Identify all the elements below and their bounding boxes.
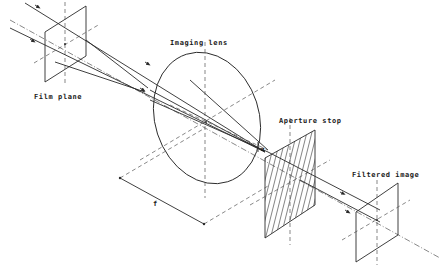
imaging-lens (137, 38, 277, 198)
converging-rays (150, 80, 268, 152)
aperture-stop-label: Aperture stop (279, 117, 342, 125)
optical-axis (10, 20, 440, 258)
outgoing-rays (268, 152, 380, 222)
filtered-image-label: Filtered image (352, 171, 419, 179)
angle-label: α (261, 145, 265, 152)
aperture-stop (240, 118, 335, 245)
imaging-lens-label: Imaging lens (170, 39, 228, 47)
focal-length-label: f (153, 200, 158, 208)
optical-diagram: α (0, 0, 443, 269)
film-plane-label: Film plane (34, 93, 82, 101)
incoming-rays (10, 3, 265, 152)
